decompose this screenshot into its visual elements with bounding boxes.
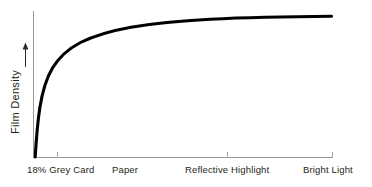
x-tick-label-reflective-highlight: Reflective Highlight	[185, 164, 269, 175]
y-axis-label: Film Density	[8, 60, 22, 144]
x-tick-label-paper: Paper	[112, 164, 138, 175]
up-arrow-icon	[23, 43, 29, 50]
x-tick-label-bright-light: Bright Light	[303, 164, 353, 175]
y-axis-label-text: Film Density	[9, 70, 21, 134]
chart-canvas	[0, 0, 372, 187]
film-density-chart-figure: Film Density 18% Grey Card Paper Reflect…	[0, 0, 372, 187]
x-tick-label-18-grey-card: 18% Grey Card	[27, 164, 94, 175]
film-density-curve	[35, 16, 331, 157]
